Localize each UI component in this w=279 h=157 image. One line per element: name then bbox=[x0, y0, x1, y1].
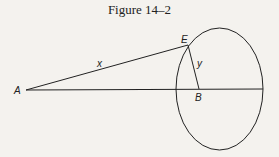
label-B: B bbox=[195, 92, 202, 103]
label-A: A bbox=[13, 85, 21, 96]
line-AE-x bbox=[26, 45, 188, 90]
geometry-diagram: A E B x y bbox=[0, 0, 279, 157]
label-x: x bbox=[96, 58, 103, 69]
label-y: y bbox=[196, 58, 203, 69]
label-E: E bbox=[181, 34, 188, 45]
line-AB-axis bbox=[26, 89, 263, 90]
